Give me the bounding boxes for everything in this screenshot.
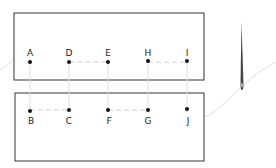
label-d: D <box>66 48 73 58</box>
label-a: A <box>27 48 34 58</box>
label-i: I <box>186 48 189 58</box>
label-c: C <box>66 116 72 126</box>
bottom-fabric <box>15 93 204 161</box>
top-fabric <box>14 13 204 80</box>
label-h: H <box>145 48 152 58</box>
label-b: B <box>28 116 34 126</box>
needle-icon <box>241 22 244 90</box>
label-j: J <box>186 116 190 126</box>
stitch-diagram: A D E H I B C F G J <box>0 0 276 168</box>
label-f: F <box>106 116 111 126</box>
label-g: G <box>145 116 152 126</box>
label-e: E <box>105 48 111 58</box>
thread-curve <box>0 58 276 117</box>
vertical-stitches <box>30 62 187 110</box>
